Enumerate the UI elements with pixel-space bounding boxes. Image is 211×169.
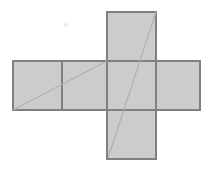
background-speck-icon [64, 23, 68, 27]
cube-net-figure [0, 0, 211, 169]
face-bottom [107, 110, 156, 159]
cube-net-svg [0, 0, 211, 169]
face-left-inner [62, 61, 107, 110]
face-left-outer [13, 61, 62, 110]
face-right [156, 61, 200, 110]
face-top [107, 12, 156, 61]
